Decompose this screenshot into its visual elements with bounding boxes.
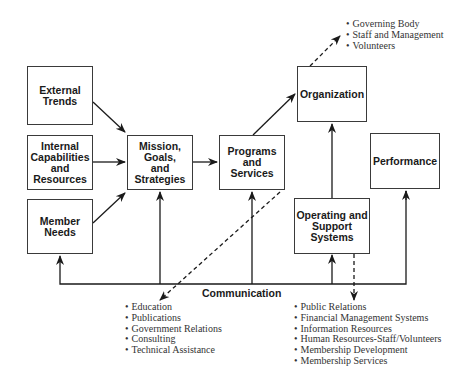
box-internal-capabilities: Internal Capabilities and Resources — [27, 135, 93, 190]
box-performance: Performance — [370, 133, 440, 189]
box-organization: Organization — [297, 66, 367, 122]
organization-items: Governing Body Staff and Management Volu… — [346, 19, 443, 51]
programs-items: Education Publications Government Relati… — [125, 302, 222, 356]
arrow-external-to-mission — [93, 102, 125, 132]
box-label: External Trends — [39, 85, 80, 107]
box-label: Member Needs — [40, 216, 80, 238]
arrow-member-to-mission — [93, 193, 125, 223]
box-programs: Programs and Services — [219, 135, 285, 190]
box-operating: Operating and Support Systems — [294, 198, 370, 254]
box-label: Operating and Support Systems — [296, 210, 367, 243]
box-label: Organization — [300, 89, 364, 100]
arrow-programs-to-organization — [253, 94, 295, 135]
list-item: Financial Management Systems — [294, 313, 442, 324]
list-item: Membership Services — [294, 356, 442, 367]
list-item: Technical Assistance — [125, 345, 222, 356]
list-item: Publications — [125, 313, 222, 324]
box-label: Performance — [373, 156, 437, 167]
communication-label: Communication — [202, 287, 281, 299]
list-item: Staff and Management — [346, 30, 443, 41]
box-mission: Mission, Goals, and Strategies — [127, 135, 193, 190]
box-member-needs: Member Needs — [27, 199, 93, 254]
operating-items: Public Relations Financial Management Sy… — [294, 302, 442, 367]
box-label: Internal Capabilities and Resources — [31, 141, 90, 185]
box-label: Mission, Goals, and Strategies — [135, 141, 186, 185]
box-external-trends: External Trends — [27, 66, 93, 125]
dashed-arrow-organization-items — [310, 36, 340, 66]
box-label: Programs and Services — [227, 146, 276, 179]
list-item: Volunteers — [346, 41, 443, 52]
